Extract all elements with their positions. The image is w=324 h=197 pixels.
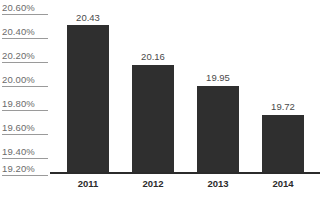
y-axis-tick-0: 20.60%: [2, 2, 48, 16]
bar[interactable]: [132, 65, 174, 172]
y-axis-tick-label: 19.40%: [2, 146, 48, 157]
y-axis-tick-label: 20.40%: [2, 26, 48, 37]
x-axis-category-label: 2014: [272, 178, 293, 189]
y-axis-tick-label: 20.00%: [2, 74, 48, 85]
bar[interactable]: [262, 115, 304, 172]
y-axis-tick-label: 19.20%: [2, 163, 48, 174]
y-axis-tick-6: 19.40%: [2, 146, 48, 160]
y-axis: 20.60% 20.40% 20.20% 20.00% 19.80% 19.60…: [0, 0, 50, 197]
y-axis-tick-label: 19.60%: [2, 122, 48, 133]
y-axis-tick-rule: [2, 62, 48, 63]
y-axis-tick-5: 19.60%: [2, 122, 48, 136]
y-axis-tick-2: 20.20%: [2, 50, 48, 64]
y-axis-tick-rule: [2, 38, 48, 39]
y-axis-tick-4: 19.80%: [2, 98, 48, 112]
y-axis-tick-rule: [2, 158, 48, 159]
y-axis-tick-rule: [2, 14, 48, 15]
y-axis-tick-1: 20.40%: [2, 26, 48, 40]
y-axis-tick-label: 19.80%: [2, 98, 48, 109]
bar[interactable]: [197, 86, 239, 172]
x-axis-category-label: 2012: [142, 178, 163, 189]
bar-group-2011: 20.43 2011: [67, 0, 109, 197]
x-axis-category-label: 2011: [78, 178, 99, 189]
bar-group-2012: 20.16 2012: [132, 0, 174, 197]
y-axis-tick-7: 19.20%: [2, 163, 48, 177]
bar-value-label: 20.16: [141, 51, 165, 62]
x-axis-category-label: 2013: [207, 178, 228, 189]
bar-group-2014: 19.72 2014: [262, 0, 304, 197]
y-axis-tick-rule: [2, 110, 48, 111]
y-axis-tick-label: 20.20%: [2, 50, 48, 61]
bar-group-2013: 19.95 2013: [197, 0, 239, 197]
y-axis-tick-rule: [2, 86, 48, 87]
bar-chart: 20.60% 20.40% 20.20% 20.00% 19.80% 19.60…: [0, 0, 324, 197]
bar[interactable]: [67, 25, 109, 172]
bar-value-label: 19.72: [271, 101, 295, 112]
y-axis-tick-rule: [2, 175, 48, 176]
y-axis-tick-rule: [2, 134, 48, 135]
bar-value-label: 20.43: [76, 12, 100, 23]
plot-area: 20.43 2011 20.16 2012 19.95 2013 19.72 2…: [50, 0, 324, 197]
bar-value-label: 19.95: [206, 72, 230, 83]
y-axis-tick-label: 20.60%: [2, 2, 48, 13]
y-axis-tick-3: 20.00%: [2, 74, 48, 88]
